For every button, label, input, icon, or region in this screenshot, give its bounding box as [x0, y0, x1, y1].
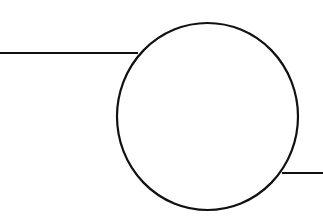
diagram-canvas [0, 0, 323, 217]
circle-node [117, 23, 298, 210]
